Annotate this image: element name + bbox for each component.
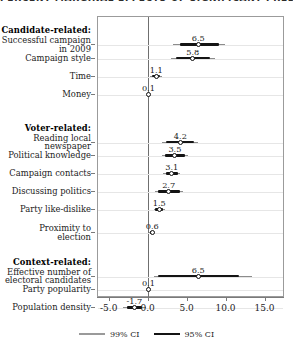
row-tick-icon — [91, 44, 95, 45]
estimate-value-label: 0.6 — [146, 221, 159, 231]
x-axis-line — [97, 297, 284, 298]
figure-title: PERCENT MARGINAL EFFECTS OF SIGNIFICANT … — [0, 0, 293, 5]
row-tick-icon — [91, 232, 95, 233]
estimate-value-label: 1.5 — [153, 198, 166, 208]
group-header-label: Context-related: — [13, 257, 91, 267]
row-gridline — [98, 77, 283, 78]
row-tick-icon — [91, 289, 95, 290]
row-label: Population density — [12, 303, 91, 312]
row-tick-icon — [91, 142, 95, 143]
x-axis-tick-icon — [265, 297, 266, 301]
estimate-value-label: 1.1 — [150, 65, 163, 75]
row-label: Reading local newspaper — [33, 134, 91, 151]
row-gridline — [98, 174, 283, 175]
row-tick-icon — [91, 209, 95, 210]
row-gridline — [98, 192, 283, 193]
legend-swatch-95ci-icon — [154, 333, 180, 336]
estimate-value-label: 0.1 — [142, 278, 155, 288]
x-axis-tick-icon — [148, 297, 149, 301]
estimate-value-label: 6.5 — [192, 33, 205, 43]
row-label: Campaign style — [25, 54, 91, 63]
row-tick-icon — [91, 94, 95, 95]
row-tick-icon — [91, 307, 95, 308]
x-axis-tick-label: 10.0 — [216, 303, 236, 313]
row-gridline — [98, 210, 283, 211]
row-label-column: Candidate-related:Successful campaign in… — [0, 16, 95, 297]
x-axis-tick-icon — [226, 297, 227, 301]
x-axis-tick-label: -5.0 — [100, 303, 117, 313]
estimate-value-label: 6.5 — [192, 265, 205, 275]
row-label: Successful campaign in 2009 — [2, 36, 91, 53]
row-label: Effective number of electoral candidates — [5, 268, 91, 285]
estimate-value-label: 2.7 — [162, 180, 175, 190]
row-label: Proximity to election — [39, 224, 91, 241]
row-label: Political knowledge — [8, 151, 91, 160]
estimate-value-label: 3.1 — [165, 162, 178, 172]
x-axis-tick-icon — [187, 297, 188, 301]
row-tick-icon — [91, 76, 95, 77]
legend-swatch-99ci-icon — [79, 333, 105, 334]
row-tick-icon — [91, 191, 95, 192]
group-header-label: Candidate-related: — [2, 25, 91, 35]
row-gridline — [98, 290, 283, 291]
row-label: Discussing politics — [12, 187, 91, 196]
legend-item-95ci: 95% CI — [154, 330, 215, 339]
legend-item-99ci: 99% CI — [79, 330, 140, 339]
estimate-value-label: 5.8 — [186, 47, 199, 57]
row-tick-icon — [91, 173, 95, 174]
x-axis-tick-label: 15.0 — [254, 303, 274, 313]
row-gridline — [98, 233, 283, 234]
x-axis-tick-label: 0.0 — [140, 303, 154, 313]
legend-label-99ci: 99% CI — [110, 330, 140, 339]
estimate-value-label: 0.1 — [142, 83, 155, 93]
row-label: Time — [70, 72, 91, 81]
row-gridline — [98, 95, 283, 96]
row-gridline — [98, 156, 283, 157]
row-tick-icon — [91, 58, 95, 59]
x-axis-tick-icon — [109, 297, 110, 301]
row-tick-icon — [91, 155, 95, 156]
estimate-value-label: 4.2 — [174, 131, 187, 141]
coefficient-plot-figure: PERCENT MARGINAL EFFECTS OF SIGNIFICANT … — [0, 0, 293, 344]
legend: 99% CI 95% CI — [0, 327, 293, 341]
row-label: Campaign contacts — [9, 169, 91, 178]
row-label: Party like-dislike — [20, 205, 91, 214]
row-label: Money — [62, 90, 91, 99]
legend-label-95ci: 95% CI — [185, 330, 215, 339]
estimate-value-label: 3.5 — [168, 144, 181, 154]
x-axis-tick-label: 5.0 — [179, 303, 193, 313]
row-label: Party popularity — [22, 285, 91, 294]
group-header-label: Voter-related: — [25, 123, 91, 133]
row-tick-icon — [91, 276, 95, 277]
